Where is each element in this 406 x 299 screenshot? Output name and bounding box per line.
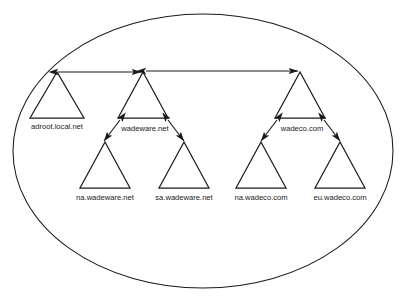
domain-labels: adroot.local.netwadeware.netwadeco.comna… [31,122,367,202]
forest-trust-diagram: adroot.local.netwadeware.netwadeco.comna… [0,0,406,299]
domain-label-adroot: adroot.local.net [31,122,84,131]
domain-label-wadeware: wadeware.net [120,124,169,133]
tree-root-trust-arrows [58,71,298,72]
domain-triangle-adroot[interactable] [30,72,84,118]
trust-wadeco-na[interactable] [261,120,277,141]
domain-triangle-na-wadeware[interactable] [80,142,130,188]
diagram-canvas: adroot.local.netwadeware.netwadeco.comna… [0,0,406,299]
domain-label-na-wadeco: na.wadeco.com [234,193,287,202]
domain-label-wadeco: wadeco.com [280,124,324,133]
domain-label-sa-wadeware: sa.wadeware.net [155,193,213,202]
domain-triangle-eu-wadeco[interactable] [315,142,365,188]
domain-label-eu-wadeco: eu.wadeco.com [313,193,366,202]
domain-triangle-sa-wadeware[interactable] [159,142,209,188]
domain-triangle-wadeware[interactable] [118,72,168,118]
domain-triangle-na-wadeco[interactable] [236,142,286,188]
domain-triangle-wadeco[interactable] [275,72,325,118]
trust-wadeco-eu[interactable] [324,120,340,141]
child-domains [80,142,365,188]
trust-wadeware-sa[interactable] [168,120,184,141]
trust-wadeware-na[interactable] [104,120,120,141]
domain-label-na-wadeware: na.wadeware.net [76,193,135,202]
tree-root-domains [30,72,325,118]
forest-boundary-ellipse [13,14,393,288]
